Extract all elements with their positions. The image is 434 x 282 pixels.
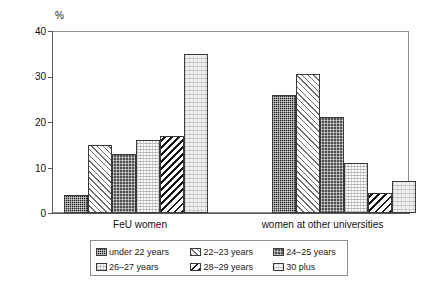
- legend-row-2: 26‒27 years 28‒29 years 30 plus: [96, 259, 342, 274]
- bar-feu-women-22-23-years: [88, 145, 112, 213]
- bar-women-at-other-universities-28-29-years: [368, 193, 392, 213]
- legend-label-30-plus: 30 plus: [286, 262, 315, 272]
- legend-item-30-plus: 30 plus: [273, 262, 342, 272]
- legend: under 22 years 22‒23 years 24‒25 years 2…: [90, 240, 348, 276]
- legend-swatch-icon-24-25-years: [273, 248, 284, 256]
- legend-item-24-25-years: 24‒25 years: [273, 247, 342, 257]
- bar-women-at-other-universities-30-plus: [392, 181, 416, 213]
- bar-feu-women-26-27-years: [136, 140, 160, 213]
- legend-swatch-icon-26-27-years: [96, 263, 107, 271]
- bar-women-at-other-universities-22-23-years: [296, 74, 320, 213]
- legend-label-22-23-years: 22‒23 years: [203, 247, 253, 257]
- group-label-feu-women: FeU women: [60, 219, 220, 230]
- legend-label-under-22-years: under 22 years: [109, 247, 169, 257]
- legend-swatch-icon-30-plus: [273, 263, 284, 271]
- legend-item-26-27-years: 26‒27 years: [96, 262, 190, 272]
- legend-item-22-23-years: 22‒23 years: [190, 247, 273, 257]
- bar-feu-women-30-plus: [184, 54, 208, 213]
- legend-swatch-icon-under-22-years: [96, 248, 107, 256]
- legend-item-28-29-years: 28‒29 years: [190, 262, 273, 272]
- bar-women-at-other-universities-under-22-years: [272, 95, 296, 213]
- bar-feu-women-24-25-years: [112, 154, 136, 213]
- legend-label-24-25-years: 24‒25 years: [286, 247, 336, 257]
- bar-feu-women-under-22-years: [64, 195, 88, 213]
- bar-women-at-other-universities-26-27-years: [344, 163, 368, 213]
- bar-chart: % 0 10 20 30 40 FeU women women at other…: [0, 0, 434, 282]
- legend-label-26-27-years: 26‒27 years: [109, 262, 159, 272]
- group-label-other-universities: women at other universities: [235, 219, 410, 230]
- bar-feu-women-28-29-years: [160, 136, 184, 213]
- legend-swatch-icon-28-29-years: [190, 263, 201, 271]
- legend-label-28-29-years: 28‒29 years: [203, 262, 253, 272]
- bar-women-at-other-universities-24-25-years: [320, 117, 344, 213]
- legend-row-1: under 22 years 22‒23 years 24‒25 years: [96, 244, 342, 259]
- legend-item-under-22-years: under 22 years: [96, 247, 190, 257]
- legend-swatch-icon-22-23-years: [190, 248, 201, 256]
